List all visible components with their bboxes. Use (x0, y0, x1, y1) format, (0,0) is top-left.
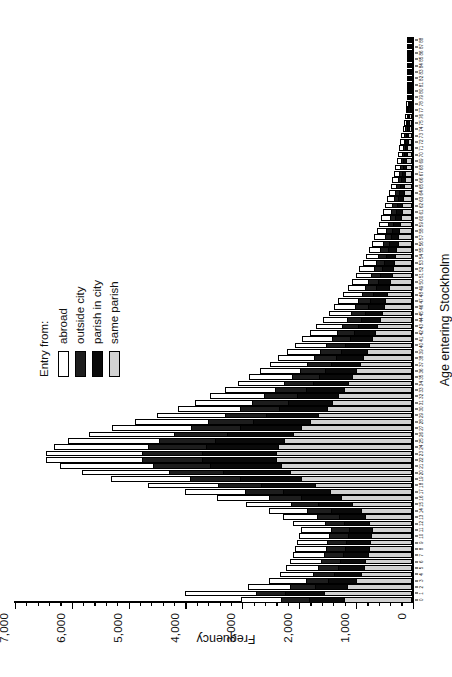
bar-segment (323, 317, 347, 323)
category-tick-label: 81 (419, 82, 424, 87)
category-tick-label: 57 (419, 235, 424, 240)
bar-segment (407, 145, 412, 151)
bar-segment (253, 419, 309, 425)
category-tick (415, 110, 418, 111)
category-tick (415, 364, 418, 365)
bar-segment (260, 368, 300, 374)
value-tick-label: 6,000 (55, 613, 67, 643)
bar-column (14, 419, 412, 425)
category-tick-label: 41 (419, 337, 424, 342)
category-tick (415, 307, 418, 308)
bar-segment (341, 349, 367, 355)
bar-column (14, 425, 412, 431)
bar-segment (60, 463, 153, 469)
bar-segment (352, 374, 412, 380)
legend-title: Entry from: (38, 207, 50, 377)
bar-segment (280, 572, 314, 578)
bar-segment (344, 521, 368, 527)
category-tick-label: 15 (419, 502, 424, 507)
bar-column (14, 393, 412, 399)
category-tick-label: 67 (419, 171, 424, 176)
bar-segment (369, 247, 380, 253)
bar-segment (330, 489, 412, 495)
bar-segment (283, 489, 330, 495)
bar-column (14, 171, 412, 177)
bar-column (14, 546, 412, 552)
y-axis-title: Frequency (196, 632, 255, 646)
bar-column (14, 520, 412, 526)
bar-segment (310, 419, 412, 425)
bar-segment (178, 406, 240, 412)
category-tick-label: 45 (419, 311, 424, 316)
bar-segment (318, 565, 338, 571)
bar-segment (286, 565, 318, 571)
bar-segment (344, 387, 412, 393)
bar-segment (284, 381, 313, 387)
category-tick-label: 42 (419, 330, 424, 335)
category-tick (415, 396, 418, 397)
bar-column (14, 164, 412, 170)
category-tick-label: 59 (419, 222, 424, 227)
category-tick (415, 370, 418, 371)
bar-segment (240, 476, 301, 482)
category-tick (415, 491, 418, 492)
value-tick-major (129, 603, 130, 610)
bar-segment (347, 584, 412, 590)
bar-segment (269, 508, 308, 514)
value-tick-major (72, 603, 73, 610)
category-tick-label: 75 (419, 120, 424, 125)
bar-segment (331, 508, 361, 514)
bar-segment (356, 368, 412, 374)
category-tick-label: 9 (419, 541, 424, 544)
bar-segment (348, 533, 371, 539)
category-tick-label: 17 (419, 489, 424, 494)
category-tick-label: 7 (419, 554, 424, 557)
category-tick (415, 78, 418, 79)
bar-segment (319, 374, 352, 380)
value-tick-minor (38, 603, 39, 607)
bar-segment (341, 495, 412, 501)
category-tick (415, 339, 418, 340)
bar-column (14, 489, 412, 495)
bar-segment (313, 381, 349, 387)
value-tick-minor (106, 603, 107, 607)
category-tick-label: 77 (419, 108, 424, 113)
category-tick-label: 62 (419, 203, 424, 208)
category-tick-label: 26 (419, 432, 424, 437)
bar-segment (391, 235, 399, 241)
bar-column (14, 132, 412, 138)
chart-canvas: 01,0002,0003,0004,0005,0006,0007,000 012… (0, 0, 452, 677)
category-tick-label: 12 (419, 521, 424, 526)
category-tick-label: 40 (419, 343, 424, 348)
legend-swatch (75, 351, 86, 377)
category-tick-label: 14 (419, 508, 424, 513)
bar-segment (225, 387, 275, 393)
bar-segment (215, 438, 284, 444)
value-tick-minor (322, 603, 323, 607)
bar-segment (301, 476, 412, 482)
chart-legend: Entry from: abroadoutside cityparish in … (38, 207, 125, 377)
bar-segment (190, 476, 239, 482)
value-tick-label: 7,000 (0, 613, 10, 643)
bar-column (14, 62, 412, 68)
bar-column (14, 463, 412, 469)
bar-segment (135, 419, 208, 425)
bar-segment (285, 591, 324, 597)
bar-segment (392, 228, 399, 234)
bar-column (14, 145, 412, 151)
category-tick (415, 428, 418, 429)
category-tick (415, 97, 418, 98)
category-tick (415, 529, 418, 530)
category-tick (415, 281, 418, 282)
category-tick-label: 2 (419, 586, 424, 589)
value-tick-label: 1,000 (339, 613, 351, 643)
category-tick-label: 76 (419, 114, 424, 119)
bar-segment (392, 273, 412, 279)
bar-column (14, 43, 412, 49)
bar-segment (380, 247, 387, 253)
bar-segment (317, 514, 338, 520)
bar-segment (306, 578, 328, 584)
bar-segment (331, 527, 350, 533)
category-tick (415, 148, 418, 149)
value-tick-minor (83, 603, 84, 607)
